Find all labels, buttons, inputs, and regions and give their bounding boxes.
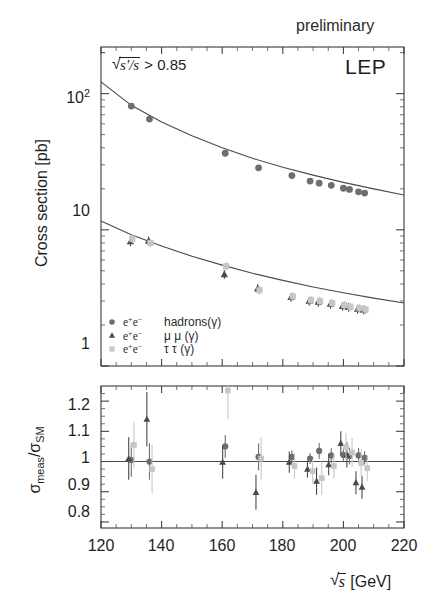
ratio-datapoint-triangle [253,489,260,495]
sm-curve-hadrons [101,82,404,195]
datapoint-circle [288,172,295,179]
ratio-datapoint-triangle [143,416,150,422]
datapoint-square [317,298,323,304]
datapoint-circle [222,150,229,157]
legend-final-state: τ τ (γ) [164,342,194,356]
legend-circle-marker [109,319,115,325]
legend-final-state: μ μ (γ) [164,329,199,343]
datapoint-square [308,297,314,303]
ratio-datapoint-triangle [359,484,366,490]
ratio-datapoint-square [310,468,316,474]
datapoint-circle [307,178,314,185]
datapoint-circle [355,188,362,195]
figure-canvas: preliminary LEP s'/s > 0.85 Cross sectio… [0,0,430,616]
legend-initial-state: e+e− [123,342,143,355]
legend-charge-minus: − [138,342,143,351]
datapoint-square [347,304,353,310]
datapoint-square [290,293,296,299]
ratio-datapoint-square [149,466,155,472]
plot-area: e+e−hadrons(γ)e+e−μ μ (γ)e+e−τ τ (γ) [0,0,430,616]
datapoint-square [362,306,368,312]
ratio-datapoint-square [364,465,370,471]
ratio-datapoint-square [349,450,355,456]
legend-charge-minus: − [138,329,143,338]
datapoint-circle [128,103,135,110]
ratio-datapoint-square [331,463,337,469]
datapoint-square [341,302,347,308]
datapoint-triangle [221,271,228,278]
ratio-datapoint-square [292,463,298,469]
ratio-datapoint-square [319,475,325,481]
legend-initial-state: e+e− [123,329,143,342]
legend-final-state: hadrons(γ) [164,315,221,329]
ratio-datapoint-square [131,442,137,448]
ratio-datapoint-square [258,456,264,462]
legend-triangle-marker [109,332,115,337]
ratio-datapoint-square [358,460,364,466]
ratio-datapoint-triangle [353,479,360,485]
datapoint-square [147,240,153,246]
sm-curve-leptons [101,221,404,303]
legend-initial-state: e+e− [123,315,143,328]
ratio-datapoint-square [225,388,231,394]
datapoint-circle [346,186,353,193]
datapoint-circle [361,190,368,197]
datapoint-circle [340,185,347,192]
ratio-datapoint-circle [316,448,322,454]
datapoint-square [329,300,335,306]
datapoint-square [129,236,135,242]
top-panel-frame [101,47,404,366]
legend-charge-minus: − [138,315,143,324]
datapoint-square [256,287,262,293]
datapoint-square [356,305,362,311]
ratio-datapoint-square [343,444,349,450]
datapoint-square [223,263,229,269]
legend-square-marker [109,346,114,351]
datapoint-circle [146,116,153,123]
datapoint-circle [316,180,323,187]
datapoint-circle [328,182,335,189]
datapoint-circle [255,164,262,171]
